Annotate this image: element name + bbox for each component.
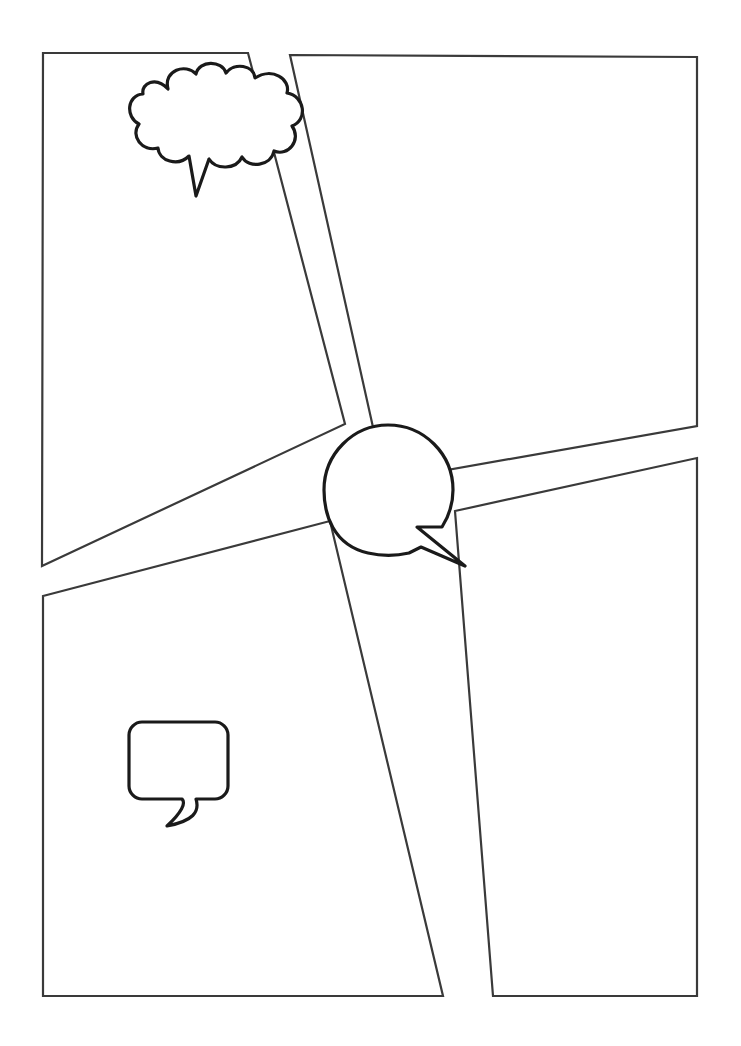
panel-bottom-left[interactable]	[43, 521, 443, 996]
comic-page	[0, 0, 741, 1046]
panel-top-right[interactable]	[290, 55, 697, 481]
panel-bottom-right[interactable]	[455, 458, 697, 996]
comic-page-canvas	[0, 0, 741, 1046]
